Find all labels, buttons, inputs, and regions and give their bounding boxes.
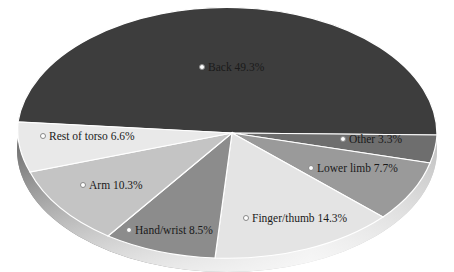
label-hand-wrist: Hand/wrist 8.5% xyxy=(126,224,213,236)
label-back: Back 49.3% xyxy=(199,61,264,73)
bullet-icon xyxy=(80,182,86,188)
bullet-icon xyxy=(126,227,132,233)
bullet-icon xyxy=(308,165,314,171)
label-rest-of-torso: Rest of torso 6.6% xyxy=(40,130,135,142)
label-lower-limb: Lower limb 7.7% xyxy=(308,162,398,174)
label-finger-thumb: Finger/thumb 14.3% xyxy=(243,212,347,224)
bullet-icon xyxy=(40,133,46,139)
label-arm: Arm 10.3% xyxy=(80,179,143,191)
bullet-icon xyxy=(243,215,249,221)
label-other: Other 3.3% xyxy=(340,133,402,145)
bullet-icon xyxy=(340,136,346,142)
bullet-icon xyxy=(199,64,205,70)
